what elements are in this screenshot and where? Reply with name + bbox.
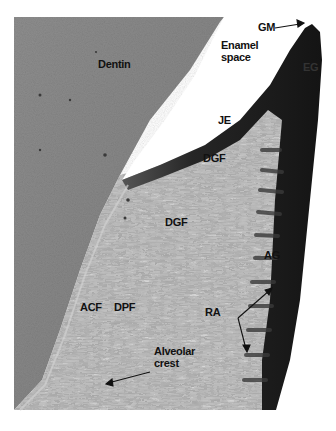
label-alveolar-crest-line2: crest (154, 357, 179, 369)
label-epithelium-gingival: EG (303, 62, 318, 73)
histology-figure: GM Enamel space Dentin EG JE DGF DGF AG … (0, 0, 336, 431)
label-alveolar-crest: Alveolar crest (154, 346, 195, 369)
label-enamel-space-line2: space (221, 51, 251, 63)
label-acf: ACF (80, 302, 102, 313)
label-dentin: Dentin (98, 59, 130, 70)
label-enamel-space-line1: Enamel (221, 39, 258, 51)
label-ra: RA (205, 307, 220, 318)
label-junctional-epithelium: JE (218, 115, 231, 126)
label-enamel-space: Enamel space (221, 40, 258, 63)
label-ag: AG (264, 250, 280, 261)
label-dgf-lower: DGF (165, 217, 187, 228)
label-dpf: DPF (114, 302, 135, 313)
label-alveolar-crest-line1: Alveolar (154, 345, 195, 357)
label-gingival-margin: GM (258, 22, 275, 33)
label-dgf-upper: DGF (203, 153, 225, 164)
